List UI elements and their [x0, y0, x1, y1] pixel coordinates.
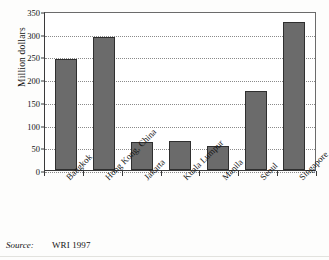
y-tick-label: 200	[27, 76, 40, 86]
y-axis-title: Million dollars	[17, 0, 27, 117]
y-tick-label: 250	[27, 53, 40, 63]
y-tick-label: 300	[27, 31, 40, 41]
bar-slot	[237, 13, 275, 170]
y-tick-label: 50	[32, 144, 41, 154]
bar	[283, 22, 306, 170]
y-tick-label: 0	[36, 167, 40, 177]
bar-slot	[85, 13, 123, 170]
bar	[169, 141, 192, 170]
bar-chart-figure: Million dollars 050100150200250300350 Ba…	[0, 0, 329, 236]
bar-slot	[275, 13, 313, 170]
bar	[245, 91, 268, 171]
source-label: Source:	[6, 240, 52, 250]
plot-area: 050100150200250300350	[44, 12, 316, 171]
chart-page: Million dollars 050100150200250300350 Ba…	[0, 0, 329, 260]
bar	[93, 37, 116, 170]
source-value: WRI 1997	[52, 240, 91, 250]
source-note: Source: WRI 1997	[6, 240, 91, 250]
bar-slot	[161, 13, 199, 170]
x-axis-labels: BangkokHong Kong, ChinaJakartaKuala Lump…	[44, 171, 316, 233]
y-tick-label: 350	[27, 8, 40, 18]
bar-slot	[47, 13, 85, 170]
x-tick-mark	[316, 171, 317, 176]
bar-series	[45, 13, 315, 170]
footer-divider	[0, 256, 329, 257]
y-tick-label: 100	[27, 122, 40, 132]
bar	[55, 59, 78, 170]
y-tick-label: 150	[27, 99, 40, 109]
